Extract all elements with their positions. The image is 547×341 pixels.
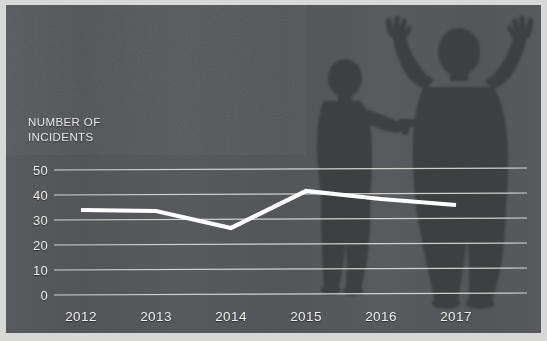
y-tick-label-20: 20 [14, 238, 48, 253]
gridlines [54, 168, 527, 295]
data-line-number-of-incidents [81, 191, 456, 228]
x-tick-label-2014: 2014 [196, 309, 266, 324]
plot-area [6, 5, 541, 333]
chart-overlay: NUMBER OF INCIDENTS 50 40 30 20 10 0 [6, 5, 541, 333]
chart-plate: NUMBER OF INCIDENTS 50 40 30 20 10 0 [6, 5, 541, 333]
gridline-0 [54, 293, 527, 295]
x-tick-label-2016: 2016 [346, 309, 416, 324]
silhouette-layer [6, 5, 541, 333]
film-grain [6, 5, 306, 155]
x-tick-label-2015: 2015 [271, 309, 341, 324]
chart-figure: NUMBER OF INCIDENTS 50 40 30 20 10 0 [0, 0, 547, 341]
gridline-20 [54, 243, 527, 245]
y-tick-label-0: 0 [14, 288, 48, 303]
y-tick-label-30: 30 [14, 213, 48, 228]
x-tick-label-2012: 2012 [46, 309, 116, 324]
y-tick-label-50: 50 [14, 163, 48, 178]
y-tick-label-40: 40 [14, 188, 48, 203]
gridline-10 [54, 268, 527, 270]
tonal-banding [6, 5, 541, 333]
gridline-30 [54, 218, 527, 220]
person-silhouette-hands-raised [386, 16, 534, 309]
y-axis-title: NUMBER OF INCIDENTS [28, 115, 101, 145]
shooter-silhouette-pointing-gun [317, 59, 418, 296]
y-tick-label-10: 10 [14, 263, 48, 278]
gridline-50 [54, 168, 527, 170]
gridline-40 [54, 193, 527, 195]
x-tick-label-2017: 2017 [421, 309, 491, 324]
x-tick-label-2013: 2013 [121, 309, 191, 324]
